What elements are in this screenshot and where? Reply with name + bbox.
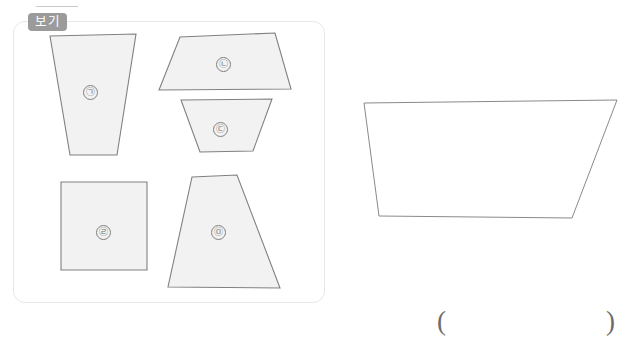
target-trapezoid[interactable]	[364, 100, 617, 218]
shape-e-label-circled-mieum: ㉤	[211, 225, 226, 240]
top-rule-divider	[36, 6, 78, 7]
shape-d-label-circled-rieul: ㉣	[96, 225, 111, 240]
answer-blank-close-paren: )	[606, 308, 615, 335]
answer-blank-open-paren: (	[437, 308, 446, 335]
shape-a-label-circled-giyeok: ㉠	[83, 85, 98, 100]
example-badge: 보기	[28, 13, 67, 31]
worksheet-page: 보기 ㉠ ㉡ ㉢ ㉣ ㉤ ( )	[0, 0, 626, 347]
shape-b-label-circled-nieun: ㉡	[216, 57, 231, 72]
shape-c-label-circled-digeut: ㉢	[213, 122, 228, 137]
